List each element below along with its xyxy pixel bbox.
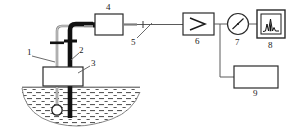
sampling-box-4 [95, 14, 123, 35]
tube-clamps [50, 40, 77, 45]
label-9: 9 [253, 89, 258, 98]
label-6: 6 [195, 37, 200, 46]
signal-line-4-to-6 [123, 21, 183, 38]
label-1: 1 [27, 48, 32, 57]
leader-line-1 [32, 56, 55, 62]
hatched-medium [22, 87, 140, 126]
bulb-sensor-icon [52, 105, 62, 115]
label-7: 7 [235, 38, 240, 47]
leader-line-5 [137, 23, 152, 38]
schematic-diagram: 1 2 3 4 5 6 7 8 9 [0, 0, 289, 132]
collar-block-3 [43, 67, 83, 86]
label-2: 2 [79, 46, 84, 55]
label-8: 8 [268, 41, 273, 50]
control-unit-9 [234, 66, 278, 88]
amplifier-6 [183, 13, 214, 35]
recorder-display-8 [257, 10, 285, 38]
diagram-canvas [0, 0, 289, 132]
gauge-meter-7 [228, 14, 249, 35]
label-4: 4 [106, 3, 111, 12]
label-3: 3 [91, 59, 96, 68]
label-5: 5 [131, 38, 136, 47]
